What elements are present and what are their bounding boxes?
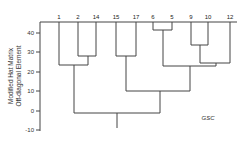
leaf-label: 12 [227,14,234,20]
y-tick-label: 40 [27,30,34,36]
y-axis-label-line2: Off-diagonal Element [15,45,23,106]
leaf-label: 5 [170,14,174,20]
leaf-label: 15 [113,14,120,20]
y-ticks: 40 30 20 10 0 -10 [25,30,40,133]
y-tick-label: 20 [27,69,34,75]
y-tick-label: -10 [25,127,34,133]
y-tick-label: 10 [27,88,34,94]
y-tick-label: 0 [31,108,35,114]
y-axis-label-line1: Modified Hat Matrix [7,47,14,104]
leaf-label: 6 [151,14,155,20]
leaf-label: 10 [205,14,212,20]
leaf-label: 17 [133,14,140,20]
y-tick-label: 30 [27,49,34,55]
leaf-labels: 1 2 14 15 17 6 5 9 10 12 [57,14,234,20]
leaf-label: 1 [57,14,61,20]
dendrogram-branches [59,22,230,128]
leaf-label: 9 [189,14,193,20]
credit-annotation: GSC [201,115,215,121]
leaf-label: 2 [76,14,80,20]
leaf-label: 14 [93,14,100,20]
dendrogram-chart: Modified Hat Matrix Off-diagonal Element… [0,0,245,143]
y-axis-label: Modified Hat Matrix Off-diagonal Element [7,45,23,106]
